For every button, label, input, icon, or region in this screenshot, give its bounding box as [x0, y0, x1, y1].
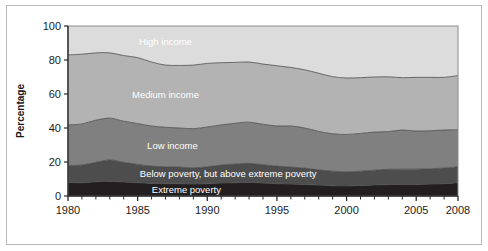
y-tick-label: 100: [43, 20, 61, 32]
x-tick-label: 1990: [195, 204, 219, 216]
x-tick-label: 1980: [56, 204, 80, 216]
y-axis: 020406080100: [43, 20, 68, 202]
band-label-high-income: High income: [139, 36, 192, 47]
y-tick-label: 60: [49, 88, 61, 100]
band-label-low-income: Low income: [147, 140, 198, 151]
y-tick-label: 0: [55, 190, 61, 202]
x-axis: 1980198519901995200020052008: [56, 196, 470, 216]
x-tick-label: 1985: [125, 204, 149, 216]
x-tick-label: 2008: [446, 204, 470, 216]
x-tick-label: 2000: [334, 204, 358, 216]
x-tick-label: 1995: [265, 204, 289, 216]
y-axis-title: Percentage: [15, 84, 26, 138]
band-label-extreme-poverty: Extreme poverty: [152, 184, 221, 195]
x-tick-label: 2005: [404, 204, 428, 216]
y-tick-label: 20: [49, 156, 61, 168]
band-label-medium-income: Medium income: [132, 89, 199, 100]
stacked-area-chart: 020406080100Percentage198019851990199520…: [0, 0, 488, 251]
band-label-below-poverty-but-above-extreme-poverty: Below poverty, but above extreme poverty: [140, 168, 317, 179]
figure-container: 020406080100Percentage198019851990199520…: [0, 0, 488, 251]
y-tick-label: 40: [49, 122, 61, 134]
y-tick-label: 80: [49, 54, 61, 66]
